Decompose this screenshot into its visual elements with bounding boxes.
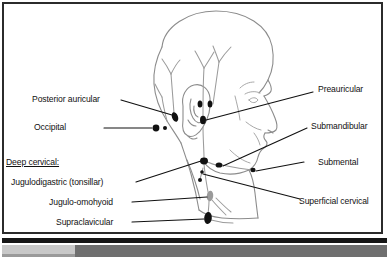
sideburn-line: [235, 96, 240, 120]
superficial-cervical-node-upper: [200, 170, 204, 174]
submental-node: [250, 168, 255, 172]
eye-outline: [249, 98, 258, 103]
vessel-frontal-trunk: [213, 62, 219, 104]
vessel-supraclavicular-out: [211, 220, 233, 223]
leader-preauricular: [206, 92, 313, 120]
screenshot-root: Posterior auricular Occipital Deep cervi…: [0, 0, 387, 257]
lymphatic-vessels-group: [155, 46, 253, 223]
cheek-line: [246, 122, 261, 130]
occipital-node-lateral: [153, 125, 160, 132]
label-superficial-cervical: Superficial cervical: [299, 196, 369, 206]
superficial-cervical-node-lower: [198, 178, 202, 182]
vessel-neck-oblique-a: [212, 200, 226, 215]
vessel-parietal-branch-right: [204, 52, 214, 68]
temple-line: [240, 82, 254, 88]
label-preauricular: Preauricular: [318, 84, 363, 94]
vessel-parietal-trunk: [203, 68, 204, 116]
leader-supraclavicular: [132, 219, 204, 222]
vessel-neck-oblique-b: [216, 198, 231, 212]
bottom-bar-black-strip: [2, 238, 387, 243]
leader-submental: [256, 162, 304, 171]
vessel-occipital-trunk: [171, 74, 174, 113]
vessel-occipital-branch-right: [171, 60, 180, 74]
jugulo-omohyoid-node: [206, 190, 214, 201]
leader-jugulo-omohyoid: [132, 197, 207, 202]
eyebrow-line: [245, 92, 260, 94]
vessel-occipital-branch-left: [162, 59, 171, 74]
bottom-bar: [0, 238, 387, 257]
submandibular-node: [216, 162, 223, 167]
label-posterior-auricular: Posterior auricular: [32, 94, 100, 104]
neck-back: [181, 143, 199, 210]
vessel-auricular-connect: [203, 127, 204, 158]
vessel-deep-cervical-chain: [204, 164, 209, 197]
label-submandibular: Submandibular: [311, 121, 368, 131]
posterior-auricular-node: [170, 111, 179, 122]
cranium-outline: [162, 11, 273, 93]
ear-concha: [194, 106, 198, 117]
vessel-parietal-branch-left: [195, 51, 204, 68]
label-submental: Submental: [318, 157, 358, 167]
neck-front: [249, 170, 258, 218]
ear-helix: [183, 85, 211, 137]
label-occipital: Occipital: [34, 122, 66, 132]
preauricular-node-upper-right: [208, 100, 213, 107]
vessel-facial-to-submandibular: [222, 165, 253, 170]
label-supraclavicular: Supraclavicular: [56, 217, 113, 227]
nasolabial-line: [254, 133, 260, 145]
vessel-frontal-branch-right: [219, 47, 231, 62]
label-jugulodigastric: Jugulodigastric (tonsillar): [11, 177, 103, 187]
label-deep-cervical-heading: Deep cervical:: [6, 157, 59, 167]
forehead-brow: [264, 80, 271, 96]
ear-group: [183, 85, 211, 139]
preauricular-node-lower: [200, 116, 206, 124]
label-jugulo-omohyoid: Jugulo-omohyoid: [49, 197, 113, 207]
vessel-frontal-branch-left: [213, 46, 219, 62]
preauricular-node-upper-left: [198, 100, 203, 107]
occipital-node-medial: [163, 126, 167, 130]
trapezius-line: [187, 160, 200, 199]
